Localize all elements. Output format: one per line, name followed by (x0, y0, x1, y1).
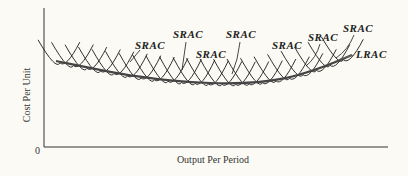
srac-curves (38, 37, 363, 86)
lrac-label: LRAC (356, 49, 387, 60)
origin-label: 0 (35, 146, 40, 156)
srac-label-1: SRAC (135, 40, 165, 51)
y-axis-label: Cost Per Unit (22, 68, 32, 122)
srac-curve (308, 42, 350, 67)
srac-curve (281, 51, 323, 76)
axes (44, 8, 388, 147)
srac-label-5: SRAC (272, 40, 302, 51)
srac-label-7: SRAC (343, 23, 373, 34)
srac-label-2: SRAC (173, 29, 203, 40)
x-axis-label: Output Per Period (177, 155, 249, 165)
srac-label-6: SRAC (308, 32, 338, 43)
srac-label-3: SRAC (196, 49, 226, 60)
srac-label-4: SRAC (226, 29, 256, 40)
